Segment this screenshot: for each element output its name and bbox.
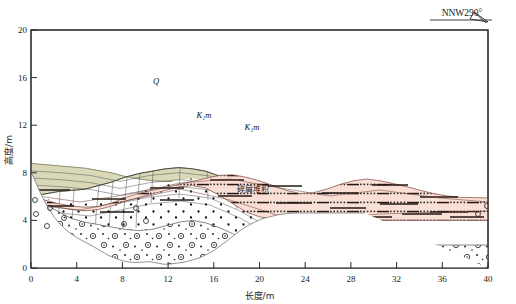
y-tick-label-4: 4 [23,215,28,225]
unit-label-Q: Q [153,76,159,86]
x-tick-label-8: 8 [120,274,125,284]
y-axis-title: 高度/m [3,135,14,165]
x-tick-label-20: 20 [255,274,265,284]
x-tick-label-36: 36 [438,274,448,284]
x-tick-label-28: 28 [346,274,356,284]
unit-label-K1m-upper: K₁m [196,110,212,120]
y-tick-label-16: 16 [18,73,28,83]
x-axis-title: 长度/m [245,290,275,301]
x-tick-label-0: 0 [29,274,34,284]
unit-label-K1m-lower: K₁m [244,122,260,132]
cross-section-svg: Q K₁m K₁m 碎屑堆积 NNW290° 0 4 8 12 [0,0,516,304]
x-tick-label-16: 16 [209,274,219,284]
x-tick-label-40: 40 [484,274,494,284]
unit-label-debris: 碎屑堆积 [237,184,269,194]
y-tick-label-12: 12 [18,120,27,130]
x-tick-label-4: 4 [74,274,79,284]
y-tick-label-20: 20 [18,25,28,35]
direction-label: NNW290° [442,8,483,18]
geological-cross-section-figure: Q K₁m K₁m 碎屑堆积 NNW290° 0 4 8 12 [0,0,516,304]
x-tick-label-24: 24 [301,274,311,284]
y-tick-label-0: 0 [23,263,28,273]
x-tick-label-12: 12 [164,274,173,284]
x-tick-label-32: 32 [392,274,401,284]
direction-annotation: NNW290° [430,8,492,23]
y-tick-label-8: 8 [23,168,28,178]
